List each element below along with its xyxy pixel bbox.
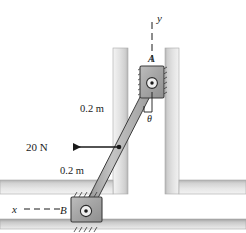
force-label: 20 N — [26, 141, 48, 153]
force-application-point — [117, 145, 122, 150]
figure-canvas: y x — [0, 0, 246, 233]
collar-a: A — [138, 52, 167, 98]
dimension-upper-label: 0.2 m — [80, 103, 104, 114]
collar-a-label: A — [147, 52, 155, 64]
applied-force-annotation: 20 N — [26, 141, 121, 153]
x-axis-label: x — [11, 203, 17, 215]
dimension-lower-label: 0.2 m — [60, 165, 84, 176]
y-axis-label: y — [156, 12, 162, 24]
vertical-slot-left-wall — [113, 48, 128, 194]
dimension-labels: 0.2 m 0.2 m — [60, 103, 104, 176]
statics-figure: y x — [0, 0, 246, 233]
collar-a-pin-center — [150, 81, 153, 84]
ground-rail — [0, 219, 246, 229]
collar-b-pin-center — [84, 209, 88, 213]
right-horizontal-wall — [179, 180, 246, 194]
collar-b-label: B — [60, 204, 67, 216]
theta-label: θ — [147, 113, 152, 124]
vertical-slot-right-wall — [165, 48, 179, 194]
